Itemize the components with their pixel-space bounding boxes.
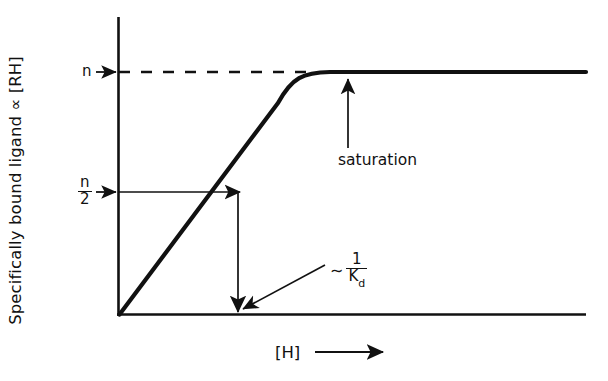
y-tick-label-n-over-2: n 2 <box>78 175 92 208</box>
fraction-numerator: 1 <box>346 252 367 268</box>
fraction-denominator: 2 <box>78 191 92 208</box>
kd-annotation: ∼ 1 Kd <box>330 252 367 287</box>
kd-symbol: K <box>348 267 358 285</box>
kd-subscript: d <box>358 277 365 290</box>
y-tick-label-n: n <box>82 64 92 79</box>
fraction-n-over-2: n 2 <box>78 175 92 208</box>
approximately-symbol: ∼ <box>330 263 343 279</box>
x-axis-title: [H] <box>275 345 300 362</box>
fraction-numerator: n <box>78 175 92 191</box>
saturation-annotation: saturation <box>338 153 417 169</box>
binding-curve-figure: Specifically bound ligand ∝ [RH] [H] n n… <box>0 0 608 381</box>
fraction-denominator: Kd <box>346 268 367 288</box>
fraction-one-over-kd: 1 Kd <box>346 252 367 287</box>
y-axis-title: Specifically bound ligand ∝ [RH] <box>0 0 30 381</box>
kd-leader-line <box>243 265 325 309</box>
